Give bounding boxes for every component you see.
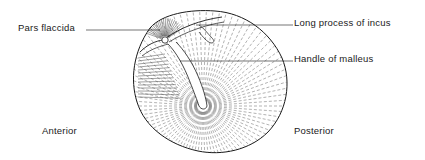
radial-hatching — [93, 0, 313, 160]
lateral-process — [162, 37, 168, 43]
label-pars-flaccida: Pars flaccida — [18, 23, 75, 33]
label-long-process-of-incus: Long process of incus — [294, 18, 391, 28]
label-posterior: Posterior — [294, 126, 334, 136]
incus-long-process — [199, 25, 214, 43]
label-anterior: Anterior — [42, 126, 77, 136]
label-handle-of-malleus: Handle of malleus — [294, 54, 373, 64]
